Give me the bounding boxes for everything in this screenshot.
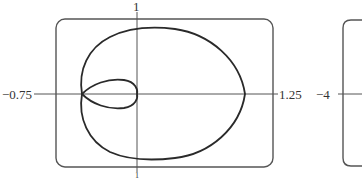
viewing-window-frame bbox=[56, 19, 273, 167]
x-max-label: 1.25 bbox=[279, 88, 302, 101]
y-max-label: 1 bbox=[133, 0, 140, 13]
x-min-label: −0.75 bbox=[2, 88, 32, 101]
second-x-min-label: −4 bbox=[316, 88, 330, 101]
polar-plots bbox=[0, 0, 362, 180]
second-viewing-window-frame bbox=[343, 20, 362, 166]
y-min-label: 1 bbox=[135, 172, 139, 180]
